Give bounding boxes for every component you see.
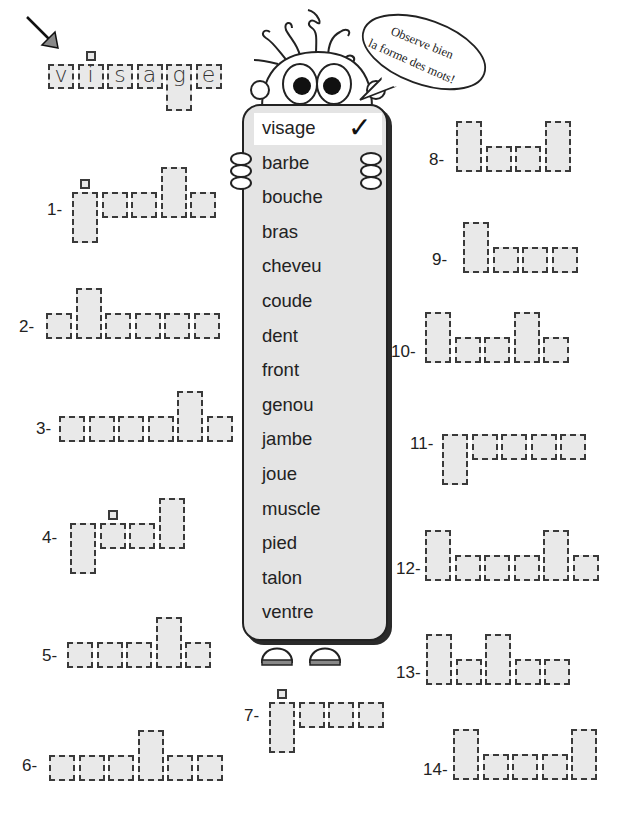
exercise-letter-box[interactable] <box>164 313 190 339</box>
exercise-letter-box[interactable] <box>49 755 75 781</box>
exercise-letter-box[interactable] <box>156 617 182 668</box>
right-hand <box>358 152 384 192</box>
exercise-letter-box[interactable] <box>453 729 479 780</box>
exercise-letter-box[interactable] <box>126 642 152 668</box>
exercise-number: 5- <box>42 646 57 666</box>
exercise-letter-box[interactable] <box>159 498 185 549</box>
word-list-item: pied <box>262 532 297 554</box>
exercise-letter-box[interactable] <box>194 313 220 339</box>
exercise-number: 10- <box>391 342 416 362</box>
exercise-number: 9- <box>432 250 447 270</box>
word-list-item: barbe <box>262 152 309 174</box>
exercise-letter-box[interactable] <box>185 642 211 668</box>
exercise-number: 13- <box>396 663 421 683</box>
exercise-number: 12- <box>396 559 421 579</box>
check-mark-icon: ✓ <box>348 111 371 144</box>
example-letter: e <box>196 62 222 87</box>
exercise-dot-box <box>80 179 90 189</box>
exercise-letter-box[interactable] <box>486 146 512 172</box>
exercise-letter-box[interactable] <box>512 754 538 780</box>
exercise-letter-box[interactable] <box>483 754 509 780</box>
exercise-letter-box[interactable] <box>442 434 468 485</box>
exercise-letter-box[interactable] <box>485 634 511 685</box>
example-letter: a <box>137 62 163 87</box>
arrow-icon <box>24 14 64 54</box>
example-letter: s <box>107 62 133 87</box>
exercise-number: 6- <box>22 756 37 776</box>
exercise-letter-box[interactable] <box>543 337 569 363</box>
exercise-letter-box[interactable] <box>455 555 481 581</box>
exercise-letter-box[interactable] <box>328 702 354 728</box>
exercise-letter-box[interactable] <box>531 434 557 460</box>
exercise-letter-box[interactable] <box>129 523 155 549</box>
exercise-letter-box[interactable] <box>514 555 540 581</box>
example-dot-box <box>86 51 96 61</box>
exercise-letter-box[interactable] <box>70 523 96 574</box>
exercise-letter-box[interactable] <box>299 702 325 728</box>
exercise-letter-box[interactable] <box>190 192 216 218</box>
exercise-letter-box[interactable] <box>46 313 72 339</box>
exercise-letter-box[interactable] <box>484 337 510 363</box>
exercise-letter-box[interactable] <box>463 222 489 273</box>
exercise-letter-box[interactable] <box>207 416 233 442</box>
exercise-letter-box[interactable] <box>76 288 102 339</box>
example-letter: v <box>48 62 74 87</box>
exercise-letter-box[interactable] <box>97 642 123 668</box>
exercise-letter-box[interactable] <box>514 312 540 363</box>
exercise-letter-box[interactable] <box>456 659 482 685</box>
exercise-letter-box[interactable] <box>425 530 451 581</box>
exercise-letter-box[interactable] <box>501 434 527 460</box>
word-list-item: dent <box>262 325 298 347</box>
exercise-letter-box[interactable] <box>118 416 144 442</box>
exercise-letter-box[interactable] <box>177 391 203 442</box>
exercise-letter-box[interactable] <box>269 702 295 753</box>
word-list-item: jambe <box>262 428 312 450</box>
exercise-letter-box[interactable] <box>79 755 105 781</box>
exercise-letter-box[interactable] <box>515 146 541 172</box>
word-list-item: visage <box>262 117 315 139</box>
exercise-letter-box[interactable] <box>100 523 126 549</box>
exercise-letter-box[interactable] <box>426 634 452 685</box>
exercise-letter-box[interactable] <box>161 167 187 218</box>
exercise-number: 3- <box>36 419 51 439</box>
exercise-letter-box[interactable] <box>108 755 134 781</box>
exercise-letter-box[interactable] <box>425 312 451 363</box>
word-list-item: genou <box>262 394 313 416</box>
exercise-letter-box[interactable] <box>59 416 85 442</box>
exercise-letter-box[interactable] <box>455 337 481 363</box>
exercise-letter-box[interactable] <box>135 313 161 339</box>
left-hand <box>228 152 254 192</box>
exercise-letter-box[interactable] <box>544 659 570 685</box>
exercise-number: 8- <box>429 150 444 170</box>
exercise-letter-box[interactable] <box>167 755 193 781</box>
exercise-letter-box[interactable] <box>515 659 541 685</box>
exercise-letter-box[interactable] <box>571 729 597 780</box>
exercise-letter-box[interactable] <box>542 754 568 780</box>
exercise-letter-box[interactable] <box>552 247 578 273</box>
exercise-letter-box[interactable] <box>358 702 384 728</box>
exercise-letter-box[interactable] <box>573 555 599 581</box>
exercise-letter-box[interactable] <box>484 555 510 581</box>
example-letter: i <box>78 62 104 87</box>
exercise-letter-box[interactable] <box>148 416 174 442</box>
exercise-letter-box[interactable] <box>560 434 586 460</box>
exercise-letter-box[interactable] <box>543 530 569 581</box>
exercise-letter-box[interactable] <box>472 434 498 460</box>
exercise-letter-box[interactable] <box>89 416 115 442</box>
exercise-letter-box[interactable] <box>545 121 571 172</box>
word-list-item: front <box>262 359 299 381</box>
exercise-letter-box[interactable] <box>72 192 98 243</box>
word-list-item: bras <box>262 221 298 243</box>
exercise-letter-box[interactable] <box>522 247 548 273</box>
word-list-item: coude <box>262 290 312 312</box>
exercise-letter-box[interactable] <box>105 313 131 339</box>
exercise-dot-box <box>108 510 118 520</box>
exercise-number: 11- <box>410 434 433 454</box>
exercise-letter-box[interactable] <box>197 755 223 781</box>
exercise-letter-box[interactable] <box>102 192 128 218</box>
exercise-letter-box[interactable] <box>456 121 482 172</box>
exercise-letter-box[interactable] <box>493 247 519 273</box>
exercise-letter-box[interactable] <box>131 192 157 218</box>
exercise-letter-box[interactable] <box>67 642 93 668</box>
exercise-letter-box[interactable] <box>138 730 164 781</box>
